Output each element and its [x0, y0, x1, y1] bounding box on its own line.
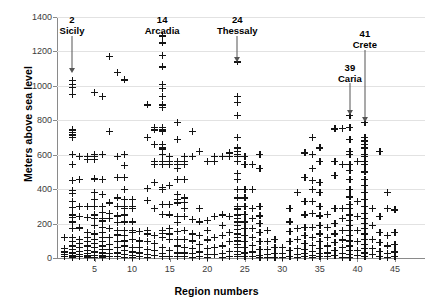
data-point	[69, 177, 76, 184]
data-point	[219, 153, 226, 160]
data-point	[324, 224, 331, 231]
data-point	[286, 238, 293, 245]
region-annotation: 39Caria	[338, 62, 362, 84]
data-point	[99, 93, 106, 100]
data-point	[181, 213, 188, 220]
data-point	[249, 253, 256, 260]
data-point	[159, 186, 166, 193]
data-point	[91, 254, 98, 261]
data-point	[346, 193, 353, 200]
x-axis-title: Region numbers	[0, 285, 433, 297]
data-point	[316, 189, 323, 196]
y-tick-label: 0	[47, 253, 52, 263]
data-point	[129, 218, 136, 225]
data-point	[76, 213, 83, 220]
data-point	[234, 253, 241, 260]
data-point	[174, 119, 181, 126]
y-tick-mark	[53, 258, 57, 259]
data-point	[234, 134, 241, 141]
data-point	[69, 225, 76, 232]
data-point	[316, 212, 323, 219]
data-point	[91, 156, 98, 163]
data-point	[114, 203, 121, 210]
data-point	[144, 238, 151, 245]
data-point	[354, 213, 361, 220]
data-point	[376, 213, 383, 220]
data-point	[121, 186, 128, 193]
y-axis-title: Meters above sea level	[22, 34, 34, 214]
y-tick-label: 800	[37, 115, 52, 125]
annotation-number: 39	[338, 62, 362, 73]
data-point	[196, 218, 203, 225]
data-point	[264, 238, 271, 245]
data-point	[189, 216, 196, 223]
data-point	[84, 156, 91, 163]
data-point	[346, 186, 353, 193]
data-point	[241, 211, 248, 218]
data-point	[301, 253, 308, 260]
data-point	[144, 101, 151, 108]
data-point	[121, 76, 128, 83]
data-point	[249, 215, 256, 222]
data-point	[211, 213, 218, 220]
data-point	[114, 153, 121, 160]
x-tick-label: 40	[352, 264, 362, 274]
data-point	[121, 162, 128, 169]
data-point	[369, 205, 376, 212]
data-point	[226, 229, 233, 236]
data-point	[91, 89, 98, 96]
data-point	[316, 203, 323, 210]
data-point	[226, 253, 233, 260]
data-point	[331, 220, 338, 227]
data-point	[339, 161, 346, 168]
x-tick-label: 20	[202, 264, 212, 274]
gridline	[57, 120, 425, 121]
data-point	[376, 253, 383, 260]
data-point	[166, 236, 173, 243]
data-point	[309, 224, 316, 231]
data-point	[84, 214, 91, 221]
x-tick-label: 15	[165, 264, 175, 274]
data-point	[234, 112, 241, 119]
data-point	[301, 232, 308, 239]
data-point	[234, 194, 241, 201]
data-point	[249, 186, 256, 193]
data-point	[121, 174, 128, 181]
scatter-chart: Meters above sea level 02004006008001000…	[0, 0, 433, 305]
gridline	[57, 86, 425, 87]
data-point	[354, 198, 361, 205]
annotation-arrowhead	[347, 110, 353, 115]
data-point	[309, 151, 316, 158]
data-point	[166, 182, 173, 189]
annotation-arrowhead	[234, 57, 240, 62]
data-point	[346, 151, 353, 158]
annotation-name: Sicily	[60, 25, 85, 36]
data-point	[346, 176, 353, 183]
data-point	[106, 225, 113, 232]
region-annotation: 41Crete	[353, 28, 377, 50]
data-point	[324, 234, 331, 241]
data-point	[151, 205, 158, 212]
y-tick-mark	[53, 17, 57, 18]
data-point	[211, 234, 218, 241]
data-point	[391, 253, 398, 260]
data-point	[189, 237, 196, 244]
data-point	[249, 225, 256, 232]
data-point	[159, 93, 166, 100]
data-point	[219, 242, 226, 249]
data-point	[331, 158, 338, 165]
data-point	[316, 179, 323, 186]
data-point	[384, 242, 391, 249]
data-point	[301, 224, 308, 231]
data-point	[226, 238, 233, 245]
data-point	[69, 91, 76, 98]
data-point	[286, 205, 293, 212]
data-point	[264, 227, 271, 234]
data-point	[151, 232, 158, 239]
data-point	[151, 161, 158, 168]
data-point	[159, 161, 166, 168]
data-point	[241, 203, 248, 210]
data-point	[234, 158, 241, 165]
data-point	[256, 203, 263, 210]
data-point	[69, 190, 76, 197]
